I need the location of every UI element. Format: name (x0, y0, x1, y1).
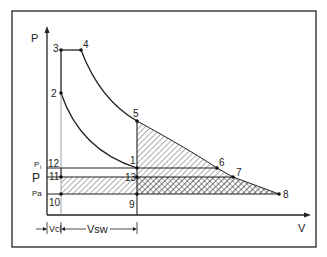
point-5-label: 5 (133, 108, 139, 119)
point-13-label: 13 (125, 172, 137, 183)
point-7-label: 7 (236, 167, 242, 178)
pa-label: Pa (32, 189, 42, 198)
x-axis-arrow-icon (304, 213, 311, 218)
point-4-label: 4 (83, 39, 89, 50)
vsw-label: Vsw (87, 223, 108, 235)
vcl-label: Vcl (49, 224, 62, 234)
point-6-label: 6 (219, 157, 225, 168)
y-axis-label: P (31, 32, 38, 44)
compression-curve (61, 93, 137, 168)
point-9-label: 9 (129, 199, 135, 210)
pv-diagram: P V 3 4 2 5 1 13 9 6 7 8 12 11 10 P i P … (0, 0, 327, 257)
pi-subscript: i (40, 164, 41, 170)
y-axis-arrow-icon (45, 26, 50, 33)
point-8-label: 8 (283, 189, 289, 200)
point-2-label: 2 (51, 88, 57, 99)
point-11-label: 11 (49, 171, 60, 182)
point-10-label: 10 (49, 197, 61, 208)
point-12-label: 12 (48, 158, 60, 169)
x-axis-label: V (298, 222, 306, 234)
point-3-label: 3 (53, 43, 59, 54)
crosshatch-area (137, 177, 279, 194)
point-1-label: 1 (130, 155, 136, 166)
pi-label: P (34, 160, 39, 169)
p-label: P (32, 171, 40, 185)
expansion-curve (81, 50, 137, 121)
